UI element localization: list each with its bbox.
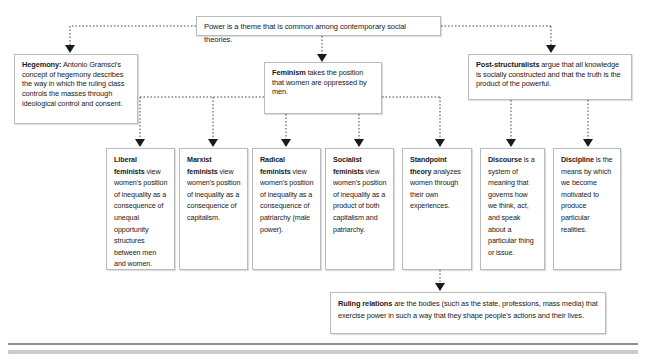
arrowhead-liberal [135, 139, 145, 147]
arrowhead-standpoint [435, 139, 445, 147]
node-feminism-term: Feminism [272, 68, 306, 77]
node-discipline-term: Discipline [561, 155, 594, 164]
node-liberal-feminists-text: view women's position of inequality as a… [114, 167, 167, 269]
arrowhead-discipline [583, 139, 593, 147]
arrowhead-radical [281, 139, 291, 147]
node-liberal-feminists-term: Liberal feminists [114, 155, 145, 176]
arrowhead-hegemony [65, 45, 75, 53]
node-marxist-feminists-term: Marxist feminists [187, 155, 218, 176]
node-liberal-feminists[interactable]: Liberal feminists view women's position … [106, 148, 175, 270]
node-power[interactable]: Power is a theme that is common among co… [196, 16, 441, 36]
node-discourse-term: Discourse [488, 155, 522, 164]
node-feminism[interactable]: Feminism takes the position that women a… [264, 62, 382, 114]
node-discipline-text: is the means by which we become motivate… [561, 155, 612, 234]
footer-rule-light [8, 350, 638, 354]
arrowhead-poststructuralists [546, 45, 556, 53]
node-radical-feminists-text: view women's position of inequality as a… [260, 167, 313, 234]
diagram-canvas: Power is a theme that is common among co… [0, 0, 646, 360]
node-socialist-feminists[interactable]: Socialist feminists view women's positio… [325, 148, 394, 270]
node-discipline[interactable]: Discipline is the means by which we beco… [553, 148, 621, 270]
node-power-text: Power is a theme that is common among co… [204, 20, 434, 46]
node-poststructuralists-term: Post-structuralists [476, 60, 539, 69]
arrowhead-discourse [506, 139, 516, 147]
node-ruling-relations-term: Ruling relations [338, 299, 392, 308]
arrowhead-socialist [354, 139, 364, 147]
arrowhead-marxist [208, 139, 218, 147]
node-hegemony-term: Hegemony: [22, 60, 61, 69]
node-marxist-feminists[interactable]: Marxist feminists view women's position … [179, 148, 248, 270]
arrowhead-feminism [317, 54, 327, 62]
node-poststructuralists[interactable]: Post-structuralists argue that all knowl… [468, 54, 632, 100]
node-socialist-feminists-term: Socialist feminists [333, 155, 364, 176]
node-discourse-text: is a system of meaning that governs how … [488, 155, 535, 257]
node-hegemony[interactable]: Hegemony: Antonio Gramsci's concept of h… [14, 54, 138, 124]
node-standpoint-theory[interactable]: Standpoint theory analyzes women through… [402, 148, 472, 270]
node-radical-feminists-term: Radical feminists [260, 155, 291, 176]
node-socialist-feminists-text: view women's position of inequality as a… [333, 167, 386, 234]
node-ruling-relations[interactable]: Ruling relations are the bodies (such as… [330, 292, 606, 334]
footer-rule-dark [8, 343, 638, 345]
arrowhead-ruling [435, 283, 445, 291]
node-radical-feminists[interactable]: Radical feminists view women's position … [252, 148, 321, 270]
node-discourse[interactable]: Discourse is a system of meaning that go… [480, 148, 545, 270]
